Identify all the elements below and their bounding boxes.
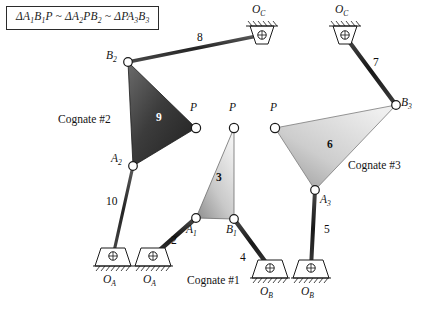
ground-pivot-ob-right — [291, 260, 331, 283]
link-6-number: 6 — [327, 138, 333, 150]
link-6-plate — [275, 105, 396, 190]
ground-oc-left-label: OC — [252, 3, 265, 18]
ground-pivot-ob-left — [250, 260, 290, 283]
joint-a3-pin — [311, 186, 320, 195]
link-10-number: 10 — [106, 195, 118, 207]
joint-a2-label: A2 — [111, 152, 122, 167]
joint-b2-label: B2 — [106, 49, 117, 64]
link-9-plate — [128, 62, 196, 166]
joint-b1-pin — [230, 215, 239, 224]
link-10-bar — [113, 166, 133, 256]
cognate-3-label: Cognate #3 — [348, 159, 401, 171]
joint-b2-pin — [124, 58, 133, 67]
ground-oc-right-label: OC — [335, 3, 348, 18]
link-3-plate — [196, 128, 234, 219]
joint-b3-pin — [392, 101, 401, 110]
ground-ob-left-label: OB — [260, 285, 273, 300]
joint-p3-pin — [270, 123, 279, 132]
ground-oa-right-label: OA — [143, 273, 156, 288]
joint-b1-label: B1 — [226, 223, 237, 238]
joint-a2-pin — [129, 162, 138, 171]
link-3-number: 3 — [216, 171, 222, 183]
joint-a1-pin — [192, 214, 201, 223]
link-9-number: 9 — [156, 111, 162, 123]
linkage-diagram — [0, 0, 425, 311]
link-8-bar — [128, 35, 262, 62]
joint-a1-label: A1 — [186, 223, 197, 238]
ground-pivot-oc-left — [246, 21, 278, 44]
cognate-1-label: Cognate #1 — [187, 274, 240, 286]
joint-p3-label: P — [270, 101, 277, 113]
joint-p2-pin — [191, 123, 200, 132]
ground-oa-left-label: OA — [103, 273, 116, 288]
cognate-2-label: Cognate #2 — [58, 113, 111, 125]
link-8-number: 8 — [197, 31, 203, 43]
ground-pivot-oc-right — [329, 21, 361, 44]
link-5-bar — [311, 190, 315, 268]
ground-pivot-oa-left — [93, 248, 133, 271]
joint-b3-label: B3 — [401, 96, 412, 111]
link-2-number: 2 — [171, 234, 177, 246]
ground-pivot-oa-right — [133, 248, 173, 271]
joint-p1-pin — [229, 123, 238, 132]
link-7-bar — [345, 36, 396, 105]
joint-p1-label: P — [229, 101, 236, 113]
link-4-number: 4 — [240, 251, 246, 263]
figure-canvas: ΔA1B1P ~ ΔA2PB2 ~ ΔPA3B3 — [0, 0, 425, 311]
joint-p2-label: P — [190, 101, 197, 113]
ground-ob-right-label: OB — [301, 285, 314, 300]
joint-a3-label: A3 — [320, 193, 331, 208]
link-7-number: 7 — [373, 56, 379, 68]
link-5-number: 5 — [324, 223, 330, 235]
